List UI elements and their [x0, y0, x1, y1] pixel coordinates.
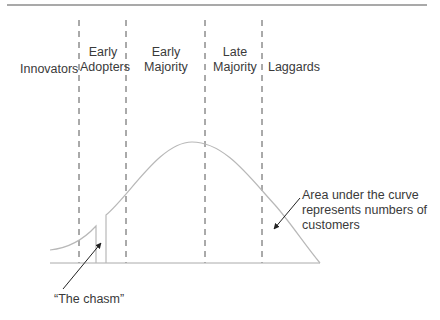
label-line: Early: [80, 45, 126, 60]
annotation-line: represents numbers of: [302, 203, 427, 218]
label-laggards: Laggards: [264, 45, 324, 75]
label-innovators: Innovators: [20, 47, 78, 77]
label-line: Majority: [208, 60, 262, 75]
label-early-adopters: Early Adopters: [80, 45, 126, 75]
label-late-majority: Late Majority: [208, 45, 262, 75]
label-line: Late: [208, 45, 262, 60]
area-annotation: Area under the curve represents numbers …: [302, 188, 427, 233]
label-line: Adopters: [80, 60, 126, 75]
label-line: Early: [130, 45, 202, 60]
label-line: [264, 45, 324, 60]
chasm-annotation: “The chasm”: [54, 292, 124, 307]
chasm-arrow: [63, 243, 101, 289]
curve-main-segment: [106, 142, 320, 263]
label-line: Majority: [130, 60, 202, 75]
area-arrow: [274, 198, 300, 229]
annotation-line: customers: [302, 218, 427, 233]
label-line: Laggards: [264, 60, 324, 75]
annotation-line: Area under the curve: [302, 188, 427, 203]
label-early-majority: Early Majority: [130, 45, 202, 75]
label-line: [20, 47, 78, 62]
label-line: Innovators: [20, 62, 78, 77]
